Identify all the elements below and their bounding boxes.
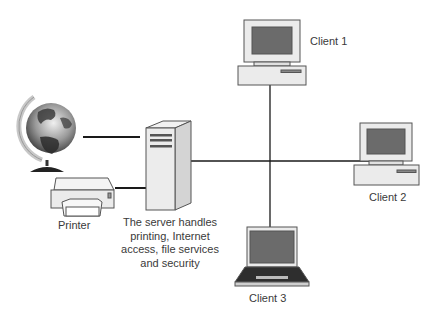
server-description-line: The server handles [110,216,230,230]
server-description-line: and security [110,257,230,271]
globe-icon [19,97,76,172]
server-tower-icon [146,121,191,210]
server-description-line: access, file services [110,243,230,257]
network-diagram: Printer The server handles printing, Int… [0,0,437,316]
printer-label: Printer [58,218,90,232]
client3-laptop-icon [235,227,309,286]
client1-desktop-icon [238,20,306,85]
server-description-line: printing, Internet [110,230,230,244]
printer-icon [51,178,114,216]
client2-desktop-icon [354,123,419,185]
client2-label: Client 2 [369,190,406,204]
server-description: The server handles printing, Internet ac… [110,216,230,270]
client3-label: Client 3 [249,291,286,305]
connection-lines [83,85,385,228]
client1-label: Client 1 [310,34,347,48]
